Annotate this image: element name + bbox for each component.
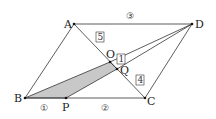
ratio-label-BP: ① bbox=[40, 103, 48, 113]
svg-text:1: 1 bbox=[119, 54, 125, 64]
label-D: D bbox=[195, 18, 204, 31]
point-A bbox=[73, 23, 76, 26]
label-C: C bbox=[147, 95, 155, 108]
label-A: A bbox=[63, 18, 73, 31]
point-O bbox=[109, 61, 112, 64]
point-C bbox=[144, 97, 147, 100]
svg-text:4: 4 bbox=[138, 75, 144, 85]
ratio-label-PC: ② bbox=[101, 103, 109, 113]
box-label-QC: 4 bbox=[136, 75, 144, 85]
label-P: P bbox=[62, 101, 70, 114]
point-D bbox=[191, 23, 194, 26]
line-DQ bbox=[117, 24, 192, 69]
svg-text:5: 5 bbox=[98, 32, 104, 42]
box-label-OQ: 1 bbox=[117, 54, 125, 64]
label-Q: Q bbox=[120, 64, 129, 77]
point-P bbox=[65, 97, 68, 100]
point-B bbox=[24, 97, 27, 100]
geometry-diagram: A B C D P O Q ③ ① ② 5 1 4 bbox=[0, 0, 216, 119]
point-Q bbox=[116, 68, 119, 71]
box-label-AO: 5 bbox=[96, 32, 104, 42]
label-O: O bbox=[106, 48, 115, 61]
ratio-label-AD: ③ bbox=[126, 11, 134, 21]
label-B: B bbox=[14, 92, 22, 105]
shaded-region-bOQP bbox=[25, 62, 117, 98]
